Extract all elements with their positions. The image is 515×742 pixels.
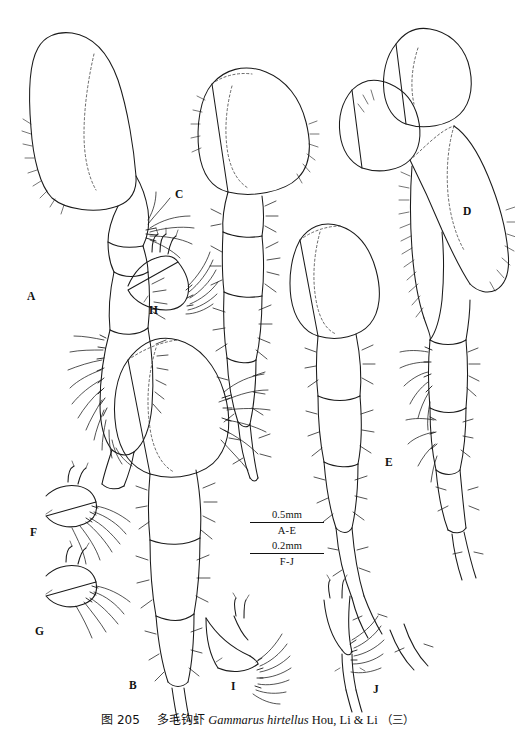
figure-part: （三） <box>381 713 414 727</box>
panel-C-gnathopod <box>191 68 319 481</box>
panel-label-G: G <box>35 626 44 638</box>
panel-D-pereopod <box>340 28 515 580</box>
panel-label-B: B <box>129 680 137 692</box>
plate-svg: .o{fill:none;stroke:#1a1a1a;stroke-width… <box>0 0 515 742</box>
panel-label-I: I <box>231 681 236 693</box>
panel-A-gnathopod <box>22 33 194 489</box>
panel-label-A: A <box>27 291 36 303</box>
panel-label-C: C <box>175 189 184 201</box>
figure-caption: 图 205 多毛钩虾 Gammarus hirtellus Hou, Li & … <box>0 712 515 728</box>
panel-E-pereopod <box>290 224 387 638</box>
scale-bars: 0.5mm A-E 0.2mm F-J <box>243 508 331 570</box>
scale-bar-fj: 0.2mm F-J <box>243 539 331 568</box>
panel-label-E: E <box>385 457 393 469</box>
panel-F-uropod <box>46 461 130 564</box>
panel-G-uropod <box>46 541 130 638</box>
panel-label-F: F <box>30 527 37 539</box>
scale-bar-ae-rule <box>250 522 324 523</box>
scale-bar-ae-range: A-E <box>243 524 331 537</box>
scale-bar-fj-value: 0.2mm <box>243 539 331 552</box>
scale-bar-fj-rule <box>250 553 324 554</box>
scale-bar-ae-value: 0.5mm <box>243 508 331 521</box>
scientific-name: Gammarus hirtellus <box>208 713 308 727</box>
panel-I-uropod <box>206 593 291 704</box>
panel-D-lower-pereopod-chain <box>390 624 433 670</box>
panel-label-J: J <box>373 684 379 696</box>
authority: Hou, Li & Li <box>312 713 378 727</box>
panel-label-D: D <box>463 206 472 218</box>
scale-bar-fj-range: F-J <box>243 555 331 568</box>
scale-bar-ae: 0.5mm A-E <box>243 508 331 537</box>
panel-label-H: H <box>149 305 158 317</box>
chinese-name: 多毛钩虾 <box>157 713 205 727</box>
illustration-plate: .o{fill:none;stroke:#1a1a1a;stroke-width… <box>0 0 515 742</box>
figure-number: 图 205 <box>101 713 140 727</box>
panel-H-uropod <box>128 228 218 314</box>
